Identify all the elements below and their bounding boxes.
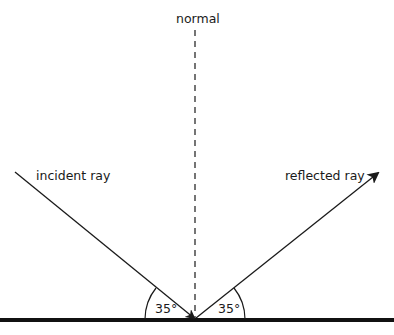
normal-label: normal [176,11,220,26]
reflected-ray [196,173,378,318]
incident-ray-label: incident ray [36,168,110,183]
reflecting-surface [0,318,394,322]
angle-left-label: 35° [155,301,177,316]
incident-ray [15,172,194,318]
angle-right-label: 35° [218,301,240,316]
reflected-ray-label: reflected ray [285,168,365,183]
